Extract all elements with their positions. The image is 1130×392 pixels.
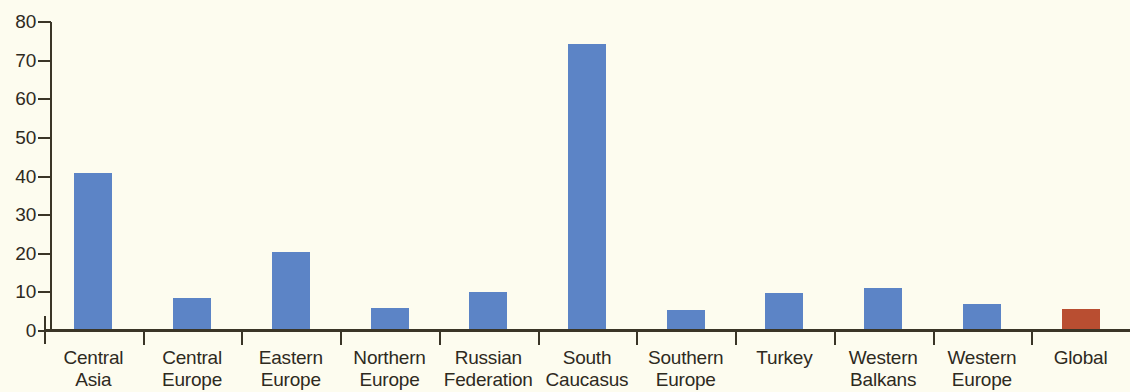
x-axis-category-label-line: Northern	[340, 347, 439, 369]
y-axis-tick-label: 50	[2, 128, 36, 147]
x-axis-category-label-line: Europe	[143, 369, 242, 391]
y-axis-tick-mark	[38, 291, 51, 293]
x-axis-category-label-line: Europe	[933, 369, 1032, 391]
x-axis-category-label-line: Central	[143, 347, 242, 369]
y-axis-tick-label-wrap: 40	[0, 167, 36, 186]
x-axis-separator	[241, 331, 243, 345]
bar	[371, 308, 409, 331]
x-axis-category-label: SouthernEurope	[636, 347, 735, 391]
x-axis-line	[44, 329, 1130, 332]
x-axis-category-label-line: Balkans	[834, 369, 933, 391]
x-axis-category-label-line: Europe	[636, 369, 735, 391]
y-axis-tick-label: 0	[2, 321, 36, 340]
x-axis-category-label: NorthernEurope	[340, 347, 439, 391]
x-axis-category-label-line: Caucasus	[538, 369, 637, 391]
y-axis-tick-label: 20	[2, 244, 36, 263]
x-axis-separator	[933, 331, 935, 345]
x-axis-category-label: CentralAsia	[44, 347, 143, 391]
y-axis-tick-label: 30	[2, 205, 36, 224]
y-axis-tick-label-wrap: 0	[0, 321, 36, 340]
y-axis-tick-label: 60	[2, 89, 36, 108]
y-axis-tick-label: 70	[2, 51, 36, 70]
x-axis-category-label: EasternEurope	[241, 347, 340, 391]
x-axis-category-label-line: Central	[44, 347, 143, 369]
y-axis-tick-label-wrap: 80	[0, 12, 36, 31]
x-axis-category-label-line: Russian	[439, 347, 538, 369]
x-axis-category-label-line: Federation	[439, 369, 538, 391]
x-axis-category-label-line: Global	[1031, 347, 1130, 369]
y-axis-tick-mark	[38, 253, 51, 255]
x-axis-category-label-line: Western	[933, 347, 1032, 369]
y-axis-tick-mark	[38, 98, 51, 100]
bar	[864, 288, 902, 331]
y-axis-tick-mark	[38, 60, 51, 62]
x-axis-category-label: CentralEurope	[143, 347, 242, 391]
y-axis-tick-label-wrap: 50	[0, 128, 36, 147]
y-axis-tick-mark	[38, 176, 51, 178]
x-axis-origin-tick	[44, 316, 46, 344]
bar	[1062, 309, 1100, 331]
x-axis-category-label-line: Eastern	[241, 347, 340, 369]
y-axis-tick-label-wrap: 70	[0, 51, 36, 70]
x-axis-separator	[439, 331, 441, 345]
bar	[469, 292, 507, 331]
x-axis-separator	[735, 331, 737, 345]
y-axis-tick-label: 40	[2, 167, 36, 186]
bar-chart: 80706050403020100 CentralAsiaCentralEuro…	[0, 0, 1130, 392]
x-axis-category-label-line: Southern	[636, 347, 735, 369]
y-axis-tick-label-wrap: 60	[0, 89, 36, 108]
y-axis-tick-label-wrap: 20	[0, 244, 36, 263]
y-axis-tick-label: 10	[2, 282, 36, 301]
y-axis-tick-label-wrap: 10	[0, 282, 36, 301]
x-axis-separator	[636, 331, 638, 345]
bar	[667, 310, 705, 331]
x-axis-category-label: WesternBalkans	[834, 347, 933, 391]
bar	[272, 252, 310, 331]
x-axis-separator	[1031, 331, 1033, 345]
bar	[74, 173, 112, 331]
x-axis-separator	[538, 331, 540, 345]
x-axis-category-label-line: Asia	[44, 369, 143, 391]
x-axis-category-label-line: Turkey	[735, 347, 834, 369]
y-axis-tick-mark	[38, 214, 51, 216]
x-axis-category-label-line: Europe	[340, 369, 439, 391]
x-axis-category-label: SouthCaucasus	[538, 347, 637, 391]
y-axis-tick-mark	[38, 21, 51, 23]
x-axis-category-label: WesternEurope	[933, 347, 1032, 391]
bar	[568, 44, 606, 331]
y-axis-tick-mark	[38, 137, 51, 139]
x-axis-separator	[834, 331, 836, 345]
x-axis-category-label: Global	[1031, 347, 1130, 369]
x-axis-separator	[340, 331, 342, 345]
x-axis-category-label-line: Western	[834, 347, 933, 369]
bar	[963, 304, 1001, 331]
x-axis-category-label: Turkey	[735, 347, 834, 369]
x-axis-separator	[143, 331, 145, 345]
y-axis-tick-label-wrap: 30	[0, 205, 36, 224]
x-axis-category-label: RussianFederation	[439, 347, 538, 391]
bar	[173, 298, 211, 331]
x-axis-category-label-line: Europe	[241, 369, 340, 391]
y-axis-tick-label: 80	[2, 12, 36, 31]
bar	[765, 293, 803, 331]
x-axis-category-label-line: South	[538, 347, 637, 369]
